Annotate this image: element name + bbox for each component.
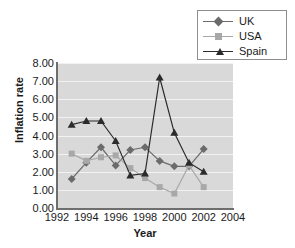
data-point-marker: [170, 129, 178, 136]
legend-label-uk: UK: [239, 16, 254, 27]
series-line: [72, 154, 204, 194]
y-tick-label: 8.00: [20, 57, 54, 69]
legend-label-usa: USA: [239, 31, 262, 42]
legend-swatch-uk: [203, 16, 233, 27]
y-tick-label: 5.00: [20, 111, 54, 123]
data-point-marker: [83, 158, 89, 164]
legend-item-usa[interactable]: USA: [198, 29, 286, 44]
y-tick-label: 4.00: [20, 130, 54, 142]
y-tick-label: 3.00: [20, 148, 54, 160]
series-layer: [57, 63, 233, 208]
data-point-marker: [201, 184, 207, 190]
inflation-rate-line-chart: 0.001.002.003.004.005.006.007.008.00 199…: [0, 0, 295, 248]
data-point-marker: [98, 154, 104, 160]
y-tick-label: 1.00: [20, 184, 54, 196]
data-point-marker: [170, 162, 178, 170]
y-tick-label: 2.00: [20, 166, 54, 178]
data-point-marker: [156, 74, 164, 81]
y-tick-label: 7.00: [20, 75, 54, 87]
legend: UK USA Spain: [197, 10, 287, 60]
x-axis-title: Year: [57, 227, 233, 239]
legend-swatch-spain: [203, 46, 233, 57]
data-point-marker: [113, 152, 119, 158]
data-point-marker: [69, 151, 75, 157]
y-tick-label: 6.00: [20, 93, 54, 105]
legend-item-spain[interactable]: Spain: [198, 44, 286, 59]
x-axis-line: [56, 208, 234, 210]
series-line: [72, 78, 204, 176]
legend-swatch-usa: [203, 31, 233, 42]
data-point-marker: [200, 168, 208, 175]
data-point-marker: [171, 191, 177, 197]
x-tick-label: 2004: [213, 211, 253, 223]
data-point-marker: [141, 170, 149, 177]
data-point-marker: [157, 184, 163, 190]
legend-item-uk[interactable]: UK: [198, 14, 286, 29]
y-axis-title: Inflation rate: [13, 60, 25, 160]
legend-label-spain: Spain: [239, 46, 267, 57]
